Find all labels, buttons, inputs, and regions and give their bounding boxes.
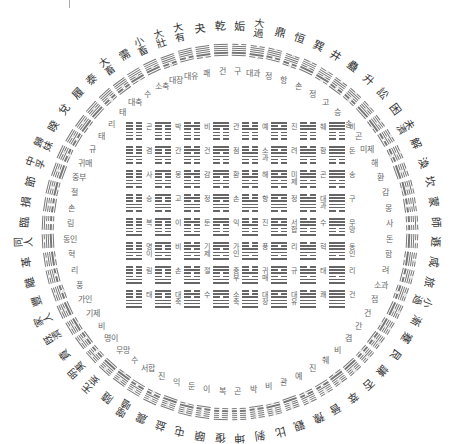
grid-hexagram-label: 태	[317, 268, 328, 275]
grid-hexagram	[126, 170, 142, 188]
hexagram-name-hanja: 井	[326, 47, 344, 64]
grid-hexagram-cell: 대과	[300, 193, 328, 215]
grid-hexagram-cell: 쾌	[300, 289, 328, 311]
hexagram-name-hanja: 升	[358, 71, 376, 89]
grid-hexagram	[126, 122, 142, 140]
grid-hexagram-cell: 곤	[300, 169, 328, 191]
grid-hexagram-label: 둔	[201, 220, 212, 227]
ring-hexagram	[143, 388, 161, 405]
grid-hexagram-label: 수	[201, 292, 212, 299]
grid-hexagram-label: 미제	[288, 172, 299, 186]
grid-hexagram	[329, 242, 345, 260]
grid-hexagram-cell: 소과	[242, 145, 270, 167]
ring-hexagram	[178, 401, 194, 416]
grid-hexagram-cell: 함	[300, 145, 328, 167]
grid-hexagram	[213, 242, 229, 260]
grid-hexagram	[271, 218, 287, 236]
grid-hexagram-label: 진	[288, 124, 299, 131]
hexagram-name-korean: 중부	[70, 173, 88, 182]
ring-hexagram	[127, 379, 145, 396]
hexagram-name-hanja: 隨	[99, 388, 117, 406]
ring-hexagram	[57, 301, 74, 319]
grid-hexagram-label: 감	[201, 172, 212, 179]
ring-hexagram	[403, 197, 417, 213]
grid-hexagram-cell: 관	[213, 121, 241, 143]
grid-hexagram-label: 익	[230, 220, 241, 227]
grid-hexagram	[242, 218, 258, 236]
grid-hexagram	[329, 170, 345, 188]
grid-hexagram-cell: 손	[213, 193, 241, 215]
grid-hexagram-label: 돈	[346, 148, 357, 155]
grid-hexagram	[155, 170, 171, 188]
grid-hexagram-label: 손	[172, 268, 183, 275]
grid-hexagram	[242, 266, 258, 284]
ring-hexagram	[195, 405, 211, 419]
grid-hexagram	[155, 194, 171, 212]
ring-hexagram	[367, 114, 385, 132]
grid-hexagram-cell: 건	[329, 289, 357, 311]
hexagram-name-hanja: 遯	[428, 235, 441, 250]
grid-hexagram-label: 겸	[143, 148, 154, 155]
hexagram-name-korean: 해	[366, 159, 384, 168]
ring-hexagram	[112, 369, 130, 387]
ring-hexagram	[403, 251, 417, 267]
grid-hexagram-label: 몽	[172, 172, 183, 179]
grid-hexagram-label: 대축	[172, 292, 183, 306]
hexagram-name-korean: 대축	[126, 98, 144, 107]
grid-hexagram-label: 리	[288, 244, 299, 251]
ring-hexagram	[356, 345, 374, 363]
hexagram-name-korean: 박	[244, 385, 262, 394]
grid-hexagram-cell: 고	[155, 193, 183, 215]
grid-hexagram	[213, 122, 229, 140]
ring-hexagram	[405, 234, 418, 249]
hexagram-name-korean: 수	[139, 90, 157, 99]
grid-hexagram	[271, 290, 287, 308]
grid-hexagram-cell: 소축	[213, 289, 241, 311]
hexagram-name-korean: 소과	[372, 281, 390, 290]
ring-hexagram	[386, 301, 403, 319]
ring-hexagram	[42, 234, 55, 249]
grid-hexagram	[300, 194, 316, 212]
hexagram-name-hanja: 謙	[373, 360, 391, 378]
grid-hexagram	[242, 290, 258, 308]
grid-hexagram-label: 비	[201, 124, 212, 131]
ring-hexagram	[393, 162, 409, 179]
hexagram-name-korean: 규	[84, 145, 102, 154]
grid-hexagram-label: 비	[346, 124, 357, 131]
hexagram-name-hanja: 艮	[386, 345, 404, 363]
ring-hexagram	[377, 316, 394, 334]
hexagram-name-korean: 동인	[61, 235, 79, 244]
hexagram-name-korean: 림	[61, 219, 79, 228]
hexagram-name-hanja: 巽	[309, 38, 327, 55]
grid-hexagram-cell: 태	[126, 289, 154, 311]
grid-hexagram	[155, 146, 171, 164]
hexagram-name-korean: 건	[358, 309, 376, 318]
grid-hexagram-cell: 절	[184, 265, 212, 287]
grid-hexagram-cell: 진	[242, 217, 270, 239]
grid-hexagram-cell: 대장	[242, 289, 270, 311]
grid-hexagram-label: 리	[346, 268, 357, 275]
grid-hexagram-label: 혁	[317, 244, 328, 251]
hexagram-name-korean: 비	[260, 382, 278, 391]
grid-hexagram	[184, 146, 200, 164]
grid-hexagram-cell: 수	[184, 289, 212, 311]
grid-hexagram-label: 고	[172, 196, 183, 203]
grid-hexagram-label: 간	[172, 148, 183, 155]
grid-hexagram	[184, 242, 200, 260]
ring-hexagram	[399, 180, 414, 196]
grid-hexagram-label: 손	[230, 196, 241, 203]
grid-hexagram-label: 송	[346, 172, 357, 179]
grid-hexagram-cell: 송	[329, 169, 357, 191]
ring-hexagram	[65, 129, 82, 147]
hexagram-name-hanja: 否	[358, 375, 376, 393]
hexagram-name-korean: 감	[376, 188, 394, 197]
ring-hexagram	[283, 53, 300, 69]
grid-hexagram-cell: 리	[329, 265, 357, 287]
grid-hexagram	[329, 266, 345, 284]
ring-hexagram	[214, 407, 229, 420]
grid-hexagram-label: 정	[201, 196, 212, 203]
grid-hexagram	[213, 266, 229, 284]
ring-hexagram	[329, 369, 347, 387]
grid-hexagram	[300, 170, 316, 188]
hexagram-name-korean: 췌	[316, 356, 334, 365]
